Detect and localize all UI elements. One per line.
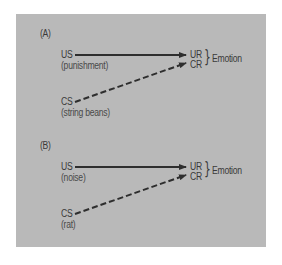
panel-label-b: (B) — [40, 140, 51, 151]
cs-label-b: CS — [61, 208, 72, 219]
cs-sub-a: (string beans) — [61, 107, 110, 118]
cr-label-a: CR — [190, 59, 202, 70]
brace-b: } — [204, 160, 211, 178]
us-label-b: US — [61, 161, 72, 172]
us-sub-b: (noise) — [61, 172, 85, 183]
cs-label-a: CS — [61, 96, 72, 107]
cs-cr-arrow-b — [75, 175, 186, 214]
panel-label-a: (A) — [40, 28, 51, 39]
us-sub-a: (punishment) — [61, 60, 108, 71]
response-label-a: Emotion — [212, 53, 242, 64]
cs-sub-b: (rat) — [61, 219, 75, 230]
arrows-layer — [0, 0, 282, 265]
response-label-b: Emotion — [212, 165, 242, 176]
brace-a: } — [204, 48, 211, 66]
cr-label-b: CR — [190, 171, 202, 182]
us-label-a: US — [61, 49, 72, 60]
